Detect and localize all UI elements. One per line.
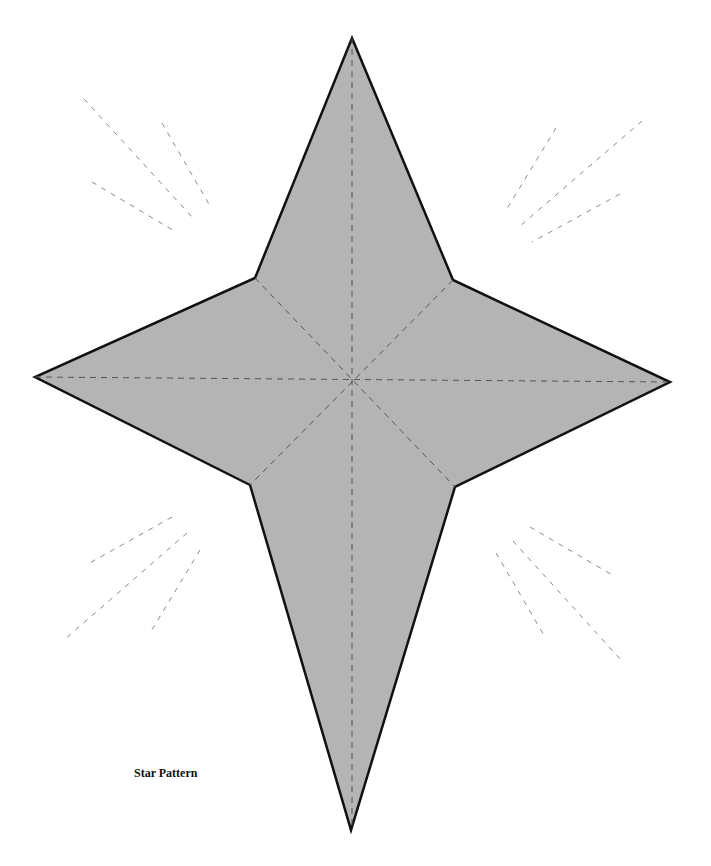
ray-line — [505, 128, 556, 212]
ray-line — [532, 194, 620, 242]
ray-line — [530, 527, 614, 576]
ray-line — [496, 553, 545, 637]
ray-line — [92, 182, 176, 232]
ray-line — [84, 99, 192, 217]
ray-line — [162, 123, 210, 206]
ray-line — [150, 550, 200, 633]
star-pattern-diagram — [0, 0, 711, 866]
ray-line — [64, 533, 187, 640]
diagram-title: Star Pattern — [134, 766, 197, 781]
ray-line — [513, 541, 621, 660]
ray-line — [520, 121, 642, 226]
